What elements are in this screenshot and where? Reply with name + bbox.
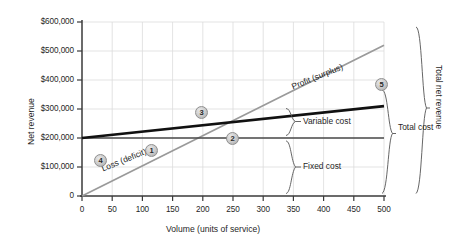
annotation-total-cost: Total cost (398, 122, 424, 132)
marker-4[interactable]: 4 (94, 154, 107, 167)
x-axis-title: Volume (units of service) (166, 224, 260, 234)
y-axis-title: Net revenue (26, 98, 36, 145)
y-tick-label-100000: $100,000 (10, 162, 74, 171)
annotation-variable-cost: Variable cost (303, 116, 351, 126)
y-tick-label-400000: $400,000 (10, 75, 74, 84)
marker-1[interactable]: 1 (145, 144, 158, 157)
y-tick-label-0: 0 (10, 191, 74, 200)
x-tick-label-400: 400 (309, 205, 339, 214)
marker-5[interactable]: 5 (375, 78, 388, 91)
x-tick-label-450: 450 (339, 205, 369, 214)
x-tick-label-250: 250 (218, 205, 248, 214)
x-tick-label-100: 100 (127, 205, 157, 214)
y-tick-label-600000: $600,000 (10, 17, 74, 26)
chart-container: $600,000 $500,000 $400,000 $300,000 $200… (0, 0, 456, 252)
y-tick-label-500000: $500,000 (10, 46, 74, 55)
y-tick-label-300000: $300,000 (10, 104, 74, 113)
chart-canvas (0, 0, 456, 252)
x-tick-label-150: 150 (158, 205, 188, 214)
annotation-fixed-cost: Fixed cost (303, 161, 341, 171)
x-tick-label-0: 0 (67, 205, 97, 214)
x-tick-label-500: 500 (369, 205, 399, 214)
x-tick-label-50: 50 (97, 205, 127, 214)
marker-2[interactable]: 2 (226, 132, 239, 145)
marker-3[interactable]: 3 (195, 106, 208, 119)
annotation-total-net-revenue: Total net revenue (434, 65, 444, 129)
x-tick-label-300: 300 (248, 205, 278, 214)
y-tick-label-200000: $200,000 (10, 133, 74, 142)
brace-total-net-revenue (416, 27, 430, 194)
x-tick-label-200: 200 (188, 205, 218, 214)
x-tick-label-350: 350 (278, 205, 308, 214)
